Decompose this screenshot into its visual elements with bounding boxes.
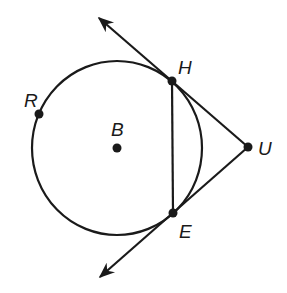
label-r: R: [24, 90, 38, 111]
label-h: H: [178, 57, 192, 78]
point-h: [168, 77, 177, 86]
point-e: [169, 209, 178, 218]
geometry-diagram: R B H U E: [0, 0, 287, 293]
point-u: [244, 143, 253, 152]
chord-he: [172, 81, 173, 213]
label-b: B: [111, 119, 124, 140]
label-e: E: [179, 221, 192, 242]
label-u: U: [258, 138, 272, 159]
point-b-center: [113, 144, 122, 153]
